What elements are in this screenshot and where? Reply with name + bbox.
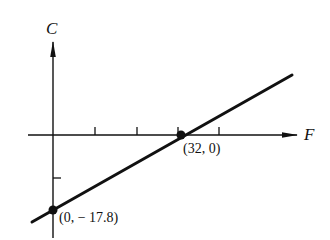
- point-y-intercept: [49, 206, 58, 215]
- point-label-y-intercept: (0, − 17.8): [59, 210, 118, 226]
- point-x-intercept: [177, 131, 186, 140]
- conversion-line: [32, 75, 292, 222]
- y-axis-label: C: [46, 19, 57, 39]
- x-axis-label: F: [304, 125, 314, 145]
- point-label-x-intercept: (32, 0): [183, 141, 220, 157]
